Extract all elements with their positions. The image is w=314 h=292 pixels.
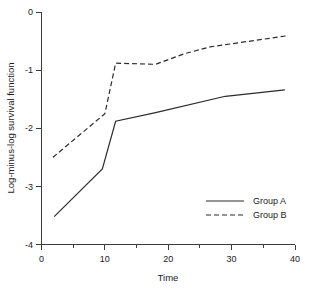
x-axis-title: Time [158,272,179,283]
x-axis: 010203040 [39,245,300,265]
x-tick-label: 30 [227,254,237,264]
series-lines [53,36,287,217]
series-line-group-a [54,90,285,217]
x-tick-labels: 010203040 [39,254,300,264]
y-tick-label: -4 [25,240,33,250]
legend-label-group-b: Group B [253,210,287,220]
chart-legend: Group AGroup B [206,196,287,220]
y-tick-marks [36,12,42,245]
legend-label-group-a: Group A [253,196,286,206]
y-tick-label: -1 [25,65,33,75]
x-tick-label: 10 [100,254,110,264]
y-tick-labels: 0-1-2-3-4 [25,7,33,250]
x-tick-label: 40 [290,254,300,264]
x-tick-marks [42,245,296,251]
y-tick-label: -2 [25,123,33,133]
x-tick-label: 0 [39,254,44,264]
chart-canvas: 0-1-2-3-4 010203040 Group AGroup B Time … [0,0,314,292]
y-axis: 0-1-2-3-4 [25,7,42,250]
y-tick-label: 0 [28,7,33,17]
x-tick-label: 20 [163,254,173,264]
series-line-group-b [53,36,287,157]
y-tick-label: -3 [25,182,33,192]
y-axis-title: Log-minus-log survival function [5,63,16,194]
log-minus-log-survival-chart: 0-1-2-3-4 010203040 Group AGroup B Time … [0,0,314,292]
